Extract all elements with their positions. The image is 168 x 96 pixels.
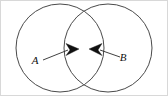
label-b: B (120, 51, 127, 63)
right-circle (64, 4, 152, 92)
annotation-b: B (89, 44, 127, 64)
figure-container: A B (0, 0, 168, 96)
annotation-a: A (31, 44, 79, 67)
arrow-head-b (89, 44, 102, 56)
figure-border (1, 1, 168, 96)
left-circle (16, 4, 104, 92)
arrow-head-a (66, 44, 79, 56)
label-a: A (31, 54, 39, 66)
overlapping-circles-diagram: A B (0, 0, 168, 96)
